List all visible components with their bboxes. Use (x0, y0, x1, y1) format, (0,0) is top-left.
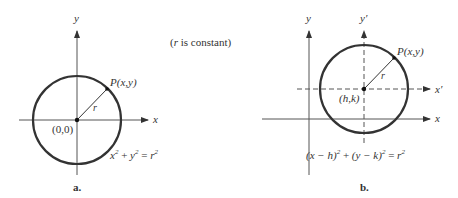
point-p-dot-b (392, 56, 396, 60)
point-label-b: P(x,y) (396, 45, 424, 58)
caption-b: b. (360, 181, 369, 193)
x-axis-label-a: x (152, 113, 158, 125)
y-prime-label-b: y′ (359, 12, 368, 24)
figure-b: y y′ x′ x P(x,y) r (h,k) (x − h)2 + (y −… (262, 12, 443, 193)
center-dot-b (362, 87, 366, 91)
circle-diagrams: y x P(x,y) r (0,0) x2 + y2 = r2 a. (r is… (0, 0, 458, 198)
y-axis-label-a: y (73, 12, 79, 24)
point-label-a: P(x,y) (109, 76, 137, 89)
caption-a: a. (73, 181, 82, 193)
constant-note: (r is constant) (170, 36, 231, 49)
center-dot-a (75, 118, 79, 122)
equation-b: (x − h)2 + (y − k)2 = r2 (306, 148, 405, 162)
radius-b (364, 58, 394, 89)
figure-a: y x P(x,y) r (0,0) x2 + y2 = r2 a. (19, 12, 159, 193)
y-axis-label-b: y (305, 12, 311, 24)
radius-label-a: r (93, 102, 97, 113)
center-label-a: (0,0) (52, 123, 73, 136)
x-axis-label-b: x (434, 112, 440, 124)
center-label-b: (h,k) (339, 92, 360, 105)
equation-a: x2 + y2 = r2 (109, 148, 159, 161)
point-p-dot-a (105, 87, 109, 91)
radius-a (77, 89, 107, 120)
radius-label-b: r (381, 70, 385, 81)
x-prime-label-b: x′ (434, 83, 443, 95)
